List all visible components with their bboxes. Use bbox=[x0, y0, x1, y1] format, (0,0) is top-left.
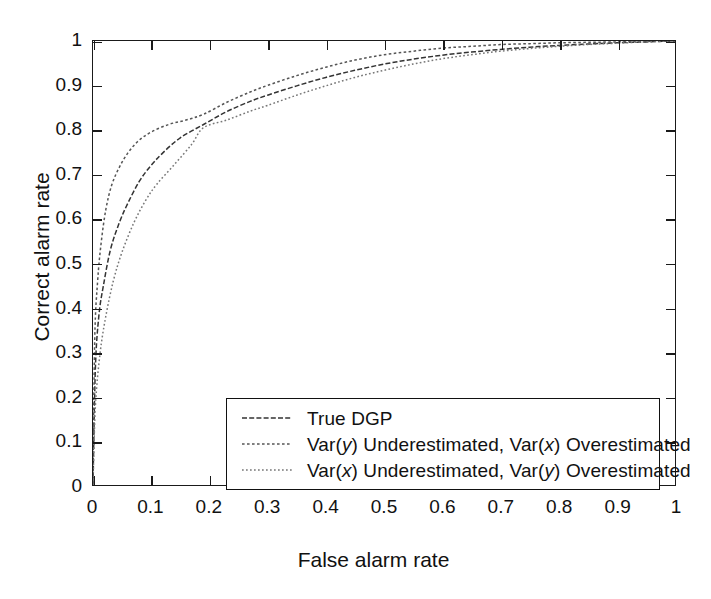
y-tick-mark-right bbox=[666, 398, 675, 399]
x-tick-mark-top bbox=[327, 41, 328, 50]
legend-items: True DGPVar(y) Underestimated, Var(x) Ov… bbox=[227, 406, 659, 484]
x-tick-label: 0.7 bbox=[488, 496, 514, 518]
x-axis-label-text: False alarm rate bbox=[298, 548, 450, 571]
y-tick-mark-right bbox=[666, 264, 675, 265]
x-tick-label: 0 bbox=[87, 496, 98, 518]
x-tick-mark-top bbox=[268, 41, 269, 50]
x-tick-label: 0.6 bbox=[429, 496, 455, 518]
x-tick-label: 0.5 bbox=[371, 496, 397, 518]
x-tick-mark bbox=[94, 476, 95, 485]
legend-item-label: True DGP bbox=[307, 408, 393, 430]
x-tick-mark-top bbox=[385, 41, 386, 50]
x-tick-label: 0.1 bbox=[137, 496, 163, 518]
x-tick-mark-top bbox=[502, 41, 503, 50]
legend-line-icon bbox=[241, 439, 293, 451]
x-tick-label: 0.9 bbox=[604, 496, 630, 518]
legend-line-icon bbox=[241, 465, 293, 477]
y-tick-mark bbox=[93, 86, 102, 87]
roc-curve-figure: 00.10.20.30.40.50.60.70.80.91 00.10.20.3… bbox=[0, 0, 711, 599]
y-axis-label: Correct alarm rate bbox=[30, 107, 54, 407]
y-tick-mark bbox=[93, 309, 102, 310]
y-tick-mark bbox=[93, 398, 102, 399]
x-tick-mark-top bbox=[560, 41, 561, 50]
x-tick-label: 0.2 bbox=[196, 496, 222, 518]
y-tick-mark bbox=[93, 42, 102, 43]
x-tick-label: 0.8 bbox=[546, 496, 572, 518]
legend-item-label: Var(x) Underestimated, Var(y) Overestima… bbox=[307, 460, 691, 482]
y-tick-mark-right bbox=[666, 175, 675, 176]
x-tick-mark-top bbox=[619, 41, 620, 50]
x-axis-label: False alarm rate bbox=[0, 548, 711, 572]
legend-item: True DGP bbox=[227, 406, 659, 432]
legend-item: Var(y) Underestimated, Var(x) Overestima… bbox=[227, 432, 659, 458]
y-tick-label: 1 bbox=[20, 29, 82, 51]
y-tick-mark-right bbox=[666, 219, 675, 220]
y-tick-mark bbox=[93, 175, 102, 176]
y-tick-mark bbox=[93, 219, 102, 220]
legend-line-icon bbox=[241, 413, 293, 425]
x-tick-mark-top bbox=[151, 41, 152, 50]
y-tick-mark bbox=[93, 264, 102, 265]
y-tick-mark bbox=[93, 485, 102, 486]
legend-item-label: Var(y) Underestimated, Var(x) Overestima… bbox=[307, 434, 691, 456]
y-tick-mark-right bbox=[666, 353, 675, 354]
y-tick-mark-right bbox=[666, 309, 675, 310]
x-tick-mark-top bbox=[443, 41, 444, 50]
x-tick-mark bbox=[210, 476, 211, 485]
y-tick-label: 0.1 bbox=[20, 430, 82, 452]
y-tick-mark bbox=[93, 442, 102, 443]
legend-box: True DGPVar(y) Underestimated, Var(x) Ov… bbox=[226, 398, 660, 490]
legend-item: Var(x) Underestimated, Var(y) Overestima… bbox=[227, 458, 659, 484]
x-tick-label: 0.3 bbox=[254, 496, 280, 518]
y-tick-label: 0 bbox=[20, 475, 82, 497]
y-tick-label: 0.9 bbox=[20, 74, 82, 96]
y-tick-mark-right bbox=[666, 86, 675, 87]
x-tick-label: 1 bbox=[671, 496, 682, 518]
y-tick-mark bbox=[93, 130, 102, 131]
y-tick-mark bbox=[93, 353, 102, 354]
y-tick-mark-right bbox=[666, 130, 675, 131]
x-tick-mark bbox=[151, 476, 152, 485]
x-tick-mark-top bbox=[675, 41, 676, 50]
y-tick-mark-right bbox=[666, 485, 675, 486]
x-tick-mark-top bbox=[210, 41, 211, 50]
x-tick-label: 0.4 bbox=[312, 496, 338, 518]
y-tick-mark-right bbox=[666, 42, 675, 43]
